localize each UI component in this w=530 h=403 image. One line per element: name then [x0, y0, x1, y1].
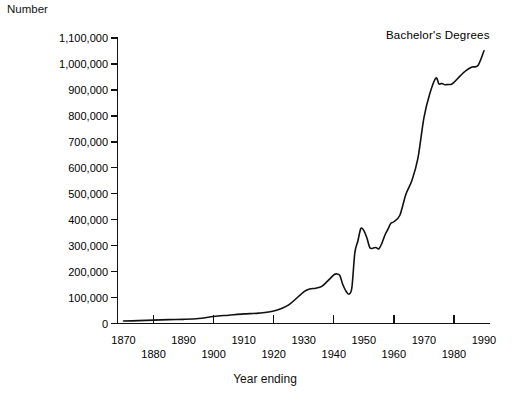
y-axis-ticks — [111, 38, 118, 324]
plot-area — [0, 0, 530, 403]
x-axis-title: Year ending — [0, 372, 530, 386]
chart-figure: Number Bachelor's Degrees 0100,000200,00… — [0, 0, 530, 403]
data-line-bachelors-degrees — [124, 51, 484, 321]
